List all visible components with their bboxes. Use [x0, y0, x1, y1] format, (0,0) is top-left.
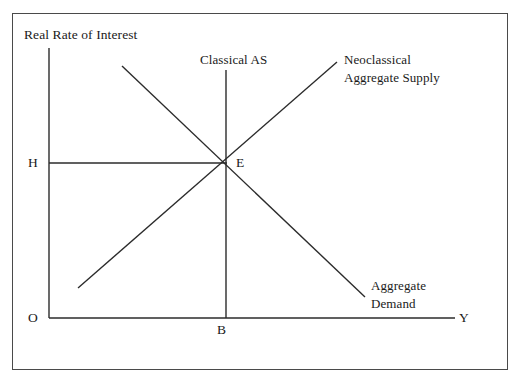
b-level-label: B [217, 322, 226, 338]
x-axis-label: Y [459, 310, 469, 326]
aggregate-demand-label-line2: Demand [371, 295, 416, 312]
classical-as-label: Classical AS [200, 51, 267, 68]
origin-label: O [28, 310, 38, 326]
aggregate-demand-curve [122, 66, 365, 297]
figure-root: Real Rate of Interest Classical AS Neocl… [0, 0, 529, 381]
neoclassical-aggregate-supply-label-line1: Neoclassical [344, 51, 411, 68]
aggregate-demand-label-line1: Aggregate [371, 277, 426, 294]
equilibrium-point-label: E [236, 155, 244, 171]
y-axis-title: Real Rate of Interest [24, 27, 137, 43]
neoclassical-aggregate-supply-label-line2: Aggregate Supply [344, 69, 440, 86]
h-level-label: H [28, 155, 38, 171]
neoclassical-aggregate-supply-curve [78, 62, 337, 288]
